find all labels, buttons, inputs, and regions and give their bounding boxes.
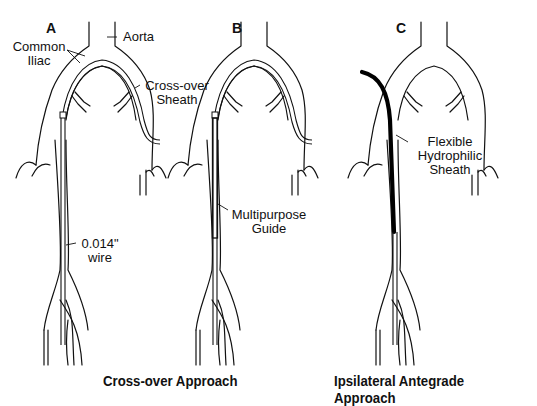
aorta-label: Aorta <box>123 30 154 44</box>
panel-label-b: B <box>232 20 242 36</box>
wire-line-1: 0.014" <box>78 237 122 251</box>
multipurpose-guide-label: Multipurpose Guide <box>228 208 310 236</box>
crossover-sheath-line-1: Cross-over <box>142 79 212 93</box>
wire-line-2: wire <box>78 251 122 265</box>
flexible-hydrophilic-sheath-label: Flexible Hydrophilic Sheath <box>412 135 488 177</box>
flex-line-3: Sheath <box>412 163 488 177</box>
panel-label-c: C <box>396 20 406 36</box>
panel-label-a: A <box>46 20 56 36</box>
crossover-sheath-label: Cross-over Sheath <box>142 79 212 107</box>
wire-label: 0.014" wire <box>78 237 122 265</box>
crossover-sheath-line-2: Sheath <box>142 93 212 107</box>
panel-a-vessels <box>16 22 166 365</box>
guide-line-1: Multipurpose <box>228 208 310 222</box>
flex-line-2: Hydrophilic <box>412 149 488 163</box>
panel-b-vessels <box>168 22 318 365</box>
common-iliac-line-2: Iliac <box>10 54 68 68</box>
caption-crossover-approach: Cross-over Approach <box>103 372 237 389</box>
panel-c-device <box>362 72 408 345</box>
common-iliac-line-1: Common <box>10 40 68 54</box>
flex-line-1: Flexible <box>412 135 488 149</box>
common-iliac-label: Common Iliac <box>10 40 68 68</box>
panel-b-device <box>212 60 312 345</box>
guide-line-2: Guide <box>228 222 310 236</box>
caption-ipsilateral-approach: Ipsilateral Antegrade Approach <box>334 372 513 406</box>
panel-a-leaders <box>66 37 140 245</box>
